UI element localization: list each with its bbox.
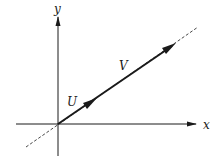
vector-v-line bbox=[58, 46, 172, 124]
vector-v-label: V bbox=[119, 59, 129, 73]
vector-u-arrowhead bbox=[83, 98, 97, 109]
x-axis-label: x bbox=[203, 118, 210, 132]
vector-u-label: U bbox=[67, 95, 78, 109]
vector-diagram: y x U V bbox=[0, 0, 221, 162]
y-axis-label: y bbox=[53, 2, 61, 16]
